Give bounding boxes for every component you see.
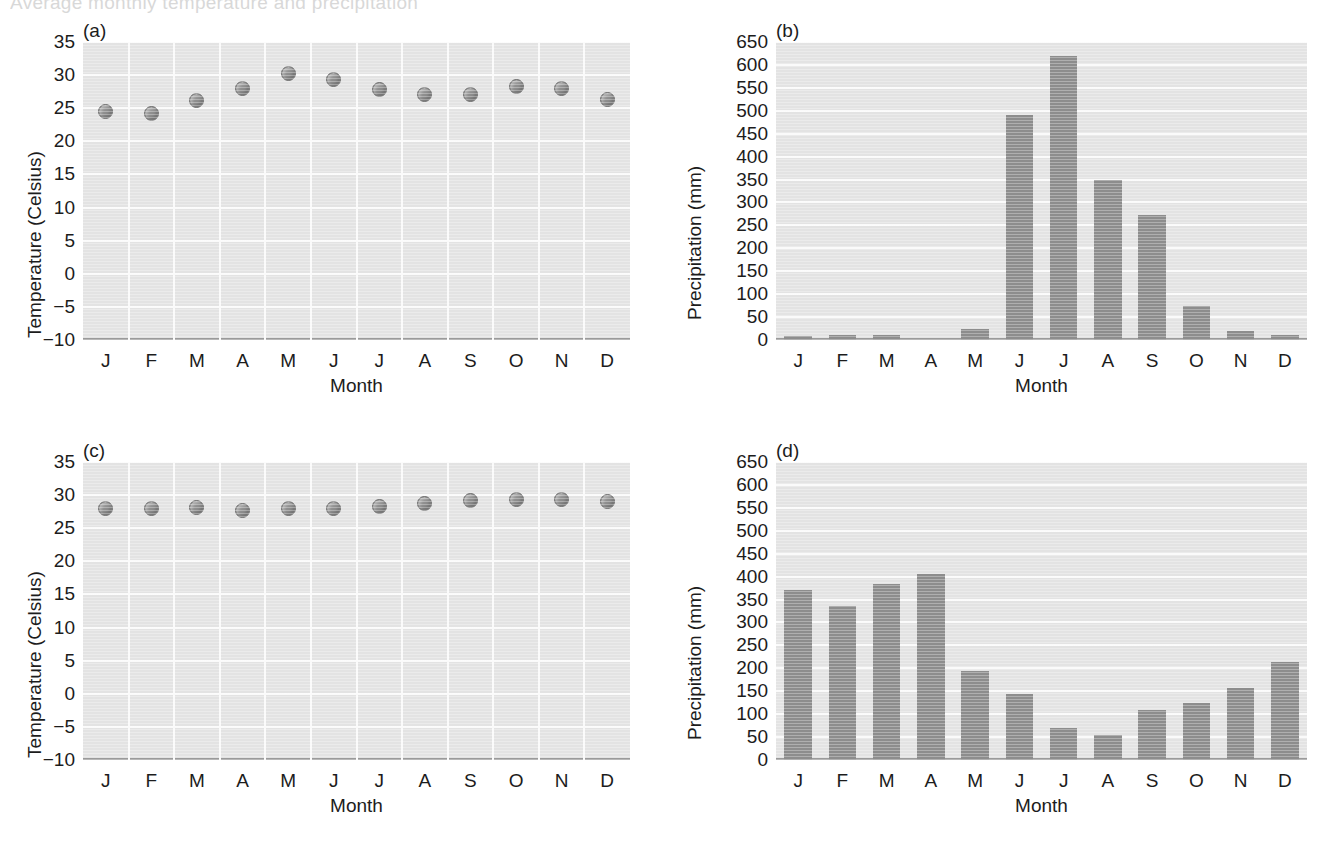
y-axis-tick-label: 500 xyxy=(660,521,768,540)
data-point-marker xyxy=(281,66,296,81)
y-axis-tick-label: 25 xyxy=(0,518,75,537)
bar xyxy=(784,590,811,760)
gridline-vertical xyxy=(492,42,494,340)
y-axis-tick-label: 400 xyxy=(660,567,768,586)
data-point-marker xyxy=(600,92,615,107)
x-axis-tick-label: O xyxy=(493,770,539,792)
y-axis-tick-label: 15 xyxy=(0,584,75,603)
gridline-vertical xyxy=(401,462,403,760)
x-axis-tick-label: J xyxy=(311,350,357,372)
gridline-vertical xyxy=(310,42,312,340)
panel-a-tag: (a) xyxy=(83,20,106,42)
panel-b: (b) Precipitation (mm) 65060055050045040… xyxy=(660,20,1327,420)
x-axis-tick-label: J xyxy=(83,350,129,372)
gridline-vertical xyxy=(447,42,449,340)
y-axis-tick-label: 10 xyxy=(0,618,75,637)
y-axis-tick-label: 300 xyxy=(660,192,768,211)
gridline-vertical xyxy=(128,462,130,760)
bar xyxy=(1006,694,1033,760)
x-axis-tick-label: J xyxy=(357,770,403,792)
data-point-marker xyxy=(326,501,341,516)
data-point-marker xyxy=(554,492,569,507)
panel-c-tag: (c) xyxy=(83,440,105,462)
x-axis-tick-label: O xyxy=(1174,770,1218,792)
bar xyxy=(873,335,900,340)
y-axis-tick-label: 20 xyxy=(0,551,75,570)
y-axis-tick-label: 650 xyxy=(660,452,768,471)
x-axis-tick-label: M xyxy=(265,770,311,792)
gridline-horizontal xyxy=(776,462,1307,463)
gridline-horizontal xyxy=(776,316,1307,318)
gridline-vertical xyxy=(173,42,175,340)
bar xyxy=(1271,335,1298,341)
bar xyxy=(1227,331,1254,340)
panel-d: (d) Precipitation (mm) 65060055050045040… xyxy=(660,440,1327,840)
y-axis-tick-label: 300 xyxy=(660,612,768,631)
gridline-horizontal xyxy=(776,293,1307,295)
data-point-marker xyxy=(417,496,432,511)
gridline-vertical xyxy=(356,462,358,760)
x-axis-tick-label: D xyxy=(1263,770,1307,792)
gridline-horizontal xyxy=(776,156,1307,158)
y-axis-tick-label: 400 xyxy=(660,147,768,166)
bar xyxy=(1183,703,1210,760)
panel-c-xlabel: Month xyxy=(83,795,630,817)
gridline-vertical xyxy=(128,42,130,340)
x-axis-tick-label: A xyxy=(220,770,266,792)
x-axis-tick-label: N xyxy=(539,350,585,372)
gridline-horizontal xyxy=(776,599,1307,601)
y-axis-tick-label: 100 xyxy=(660,704,768,723)
x-axis-tick-label: S xyxy=(448,770,494,792)
x-axis-tick-label: J xyxy=(357,350,403,372)
data-point-marker xyxy=(600,494,615,509)
gridline-horizontal xyxy=(776,484,1307,486)
x-axis-tick-label: S xyxy=(1130,350,1174,372)
x-axis-tick-label: F xyxy=(820,770,864,792)
x-axis-tick-label: D xyxy=(1263,350,1307,372)
bar xyxy=(961,671,988,760)
x-axis-tick-label: N xyxy=(1219,770,1263,792)
y-axis-tick-label: 350 xyxy=(660,170,768,189)
y-axis-tick-label: 25 xyxy=(0,98,75,117)
gridline-horizontal xyxy=(776,64,1307,66)
data-point-marker xyxy=(235,503,250,518)
panel-b-plot-area xyxy=(776,42,1307,340)
y-axis-tick-label: 250 xyxy=(660,215,768,234)
y-axis-tick-label: 5 xyxy=(0,651,75,670)
x-axis-tick-label: F xyxy=(129,350,175,372)
x-axis-tick-label: O xyxy=(493,350,539,372)
bar xyxy=(1050,728,1077,760)
bar xyxy=(829,606,856,760)
data-point-marker xyxy=(144,501,159,516)
panel-c-plot-area xyxy=(83,462,630,760)
bar xyxy=(1094,735,1121,760)
data-point-marker xyxy=(98,501,113,516)
bar xyxy=(1271,662,1298,760)
data-point-marker xyxy=(235,81,250,96)
data-point-marker xyxy=(463,493,478,508)
bar xyxy=(1094,180,1121,340)
panel-b-tag: (b) xyxy=(776,20,799,42)
data-point-marker xyxy=(281,501,296,516)
y-axis-tick-label: 30 xyxy=(0,485,75,504)
gridline-horizontal xyxy=(776,507,1307,509)
x-axis-tick-label: M xyxy=(174,350,220,372)
gridline-horizontal xyxy=(776,553,1307,555)
y-axis-tick-label: 0 xyxy=(0,264,75,283)
x-axis-tick-label: J xyxy=(1042,770,1086,792)
data-point-marker xyxy=(372,499,387,514)
x-axis-tick-label: M xyxy=(953,770,997,792)
panel-b-xlabel: Month xyxy=(776,375,1307,397)
data-point-marker xyxy=(509,492,524,507)
gridline-vertical xyxy=(492,462,494,760)
x-axis-tick-label: A xyxy=(909,770,953,792)
bar xyxy=(917,574,944,760)
y-axis-tick-label: 35 xyxy=(0,452,75,471)
gridline-horizontal xyxy=(776,133,1307,135)
gridline-vertical xyxy=(356,42,358,340)
data-point-marker xyxy=(417,87,432,102)
gridline-vertical xyxy=(310,462,312,760)
y-axis-tick-label: 20 xyxy=(0,131,75,150)
y-axis-tick-label: 0 xyxy=(0,684,75,703)
y-axis-tick-label: 150 xyxy=(660,681,768,700)
